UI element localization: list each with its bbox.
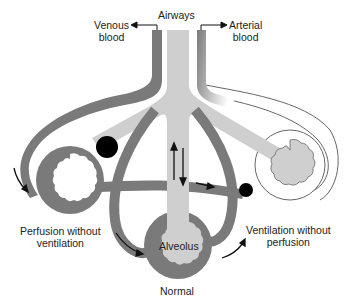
pwv-line-2: ventilation	[20, 237, 101, 249]
label-arrows	[131, 22, 227, 30]
vwp-line-2: perfusion	[246, 236, 331, 248]
vq-diagram	[0, 0, 346, 303]
arterial-line-2: blood	[229, 31, 262, 43]
ventilation-without-perfusion-label: Ventilation without perfusion	[246, 224, 331, 248]
venous-blood-label: Venous blood	[94, 19, 129, 43]
vwp-line-1: Ventilation without	[246, 224, 331, 236]
perfusion-without-ventilation-label: Perfusion without ventilation	[20, 225, 101, 249]
arterial-line-1: Arterial	[229, 19, 262, 31]
pwv-line-1: Perfusion without	[20, 225, 101, 237]
alveolus-label: Alveolus	[159, 240, 199, 252]
arterial-blood-label: Arterial blood	[229, 19, 262, 43]
normal-label: Normal	[160, 285, 194, 297]
vessel-blockage	[239, 183, 253, 197]
venous-line-1: Venous	[94, 19, 129, 31]
unit-perfusion-without-ventilation	[36, 146, 104, 214]
airway-blockage	[96, 136, 118, 158]
airways-label: Airways	[158, 9, 195, 21]
venous-line-2: blood	[94, 31, 129, 43]
